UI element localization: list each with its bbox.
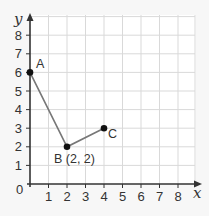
point-label: A — [36, 57, 45, 71]
x-tick-label: 8 — [174, 189, 181, 204]
y-tick-label: 2 — [15, 139, 22, 154]
y-tick-label: 8 — [15, 28, 22, 43]
data-point — [27, 69, 34, 76]
y-tick-label: 7 — [15, 46, 22, 61]
x-tick-label: 7 — [156, 189, 163, 204]
x-tick-label: 6 — [137, 189, 144, 204]
y-tick-label: 5 — [15, 84, 22, 99]
y-tick-label: 1 — [15, 158, 22, 173]
y-axis-label: y — [13, 10, 23, 28]
x-tick-label: 5 — [119, 189, 126, 204]
x-axis-label: x — [193, 184, 202, 202]
origin-label: 0 — [16, 182, 23, 197]
x-tick-label: 3 — [82, 189, 89, 204]
point-label: C — [108, 127, 117, 141]
y-tick-label: 6 — [15, 65, 22, 80]
data-point — [64, 144, 71, 151]
y-tick-label: 4 — [15, 102, 22, 117]
x-tick-label: 4 — [100, 189, 107, 204]
x-tick-label: 2 — [63, 189, 70, 204]
y-tick-label: 3 — [15, 121, 22, 136]
x-tick-label: 1 — [45, 189, 52, 204]
point-label: B (2, 2) — [54, 152, 95, 166]
data-point — [101, 125, 108, 132]
coordinate-plane: 1234567812345678 x y 0 AB (2, 2)C — [0, 0, 209, 216]
